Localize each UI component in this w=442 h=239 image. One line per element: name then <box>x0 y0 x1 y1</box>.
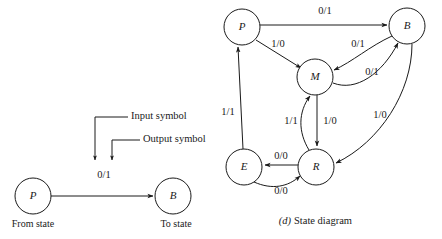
to-state-label: To state <box>160 218 192 229</box>
edge-label-r-to-e: 0/0 <box>274 150 287 161</box>
example-node-b-label: B <box>170 189 177 201</box>
edge-label-p-to-b: 0/1 <box>318 5 331 16</box>
state-machine-graph: P B M E R 0/1 1/0 0/1 0/1 1/0 1/0 1/1 0/… <box>221 5 425 196</box>
caption-marker: (d) <box>279 215 292 227</box>
edge-label-m-to-b: 0/1 <box>365 66 378 77</box>
edge-label-r-to-m: 1/1 <box>284 115 297 126</box>
edge-label-p-to-m: 1/0 <box>271 38 284 49</box>
edge-label-m-to-r: 1/0 <box>323 115 336 126</box>
input-symbol-label: Input symbol <box>131 110 187 121</box>
output-symbol-leader-line <box>112 140 140 160</box>
edge-r-to-m <box>301 96 310 150</box>
output-symbol-label: Output symbol <box>143 133 206 144</box>
from-state-label: From state <box>12 218 55 229</box>
state-node-p-label: P <box>238 20 246 32</box>
edge-label-e-to-p: 1/1 <box>221 106 234 117</box>
edge-b-to-r <box>336 44 412 163</box>
edge-label-b-to-m: 0/1 <box>351 38 364 49</box>
state-node-m-label: M <box>309 70 320 82</box>
example-transition-label: 0/1 <box>97 169 110 180</box>
figure-caption: (d) State diagram <box>279 215 352 227</box>
edge-label-b-to-r: 1/0 <box>373 109 386 120</box>
state-node-r-label: R <box>312 160 320 172</box>
state-node-b-label: B <box>404 19 411 31</box>
legend-group: Input symbol Output symbol 0/1 P B From … <box>12 110 206 229</box>
diagram-canvas: Input symbol Output symbol 0/1 P B From … <box>0 0 442 239</box>
edge-e-to-p <box>238 47 243 149</box>
edge-m-to-b <box>333 43 398 85</box>
state-diagram-figure: Input symbol Output symbol 0/1 P B From … <box>0 0 442 239</box>
state-node-e-label: E <box>240 160 248 172</box>
edge-label-e-to-r: 0/0 <box>274 185 287 196</box>
caption-text: State diagram <box>294 215 352 226</box>
example-node-p-label: P <box>29 189 37 201</box>
